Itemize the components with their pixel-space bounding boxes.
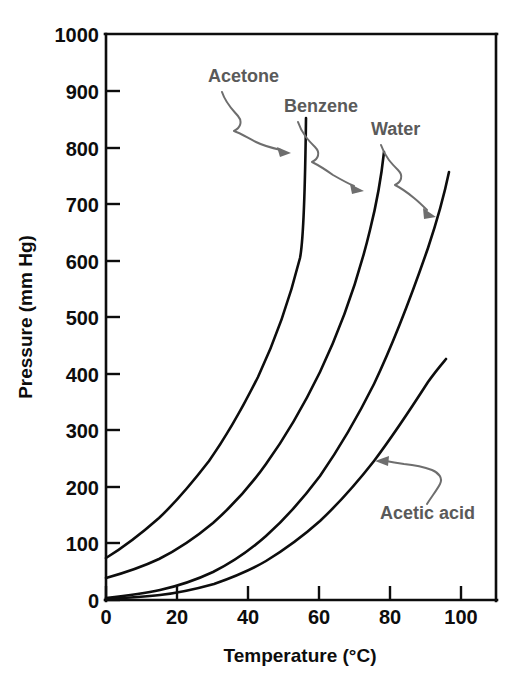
series-label-water: Water [371,119,420,139]
chart-canvas: 0 100 200 300 400 500 600 700 800 900 10… [0,0,522,677]
y-tick-label-300: 300 [66,420,99,442]
y-tick-label-1000: 1000 [55,24,100,46]
y-tick-label-700: 700 [66,194,99,216]
y-tick-label-500: 500 [66,307,99,329]
series-label-benzene: Benzene [284,96,358,116]
y-tick-label-800: 800 [66,138,99,160]
x-axis-title: Temperature (°C) [224,645,377,666]
y-tick-label-900: 900 [66,81,99,103]
series-label-acetic-acid: Acetic acid [380,503,475,523]
y-tick-label-0: 0 [88,590,99,612]
vapor-pressure-chart-figure: 0 100 200 300 400 500 600 700 800 900 10… [0,0,522,677]
x-tick-label-40: 40 [237,606,259,628]
x-tick-label-0: 0 [100,606,111,628]
x-tick-label-60: 60 [308,606,330,628]
y-tick-label-100: 100 [66,533,99,555]
y-tick-label-200: 200 [66,477,99,499]
x-tick-label-100: 100 [444,606,477,628]
y-axis-title: Pressure (mm Hg) [15,235,36,399]
x-tick-label-20: 20 [166,606,188,628]
series-label-acetone: Acetone [208,66,279,86]
x-tick-label-80: 80 [379,606,401,628]
y-tick-label-400: 400 [66,364,99,386]
y-tick-label-600: 600 [66,251,99,273]
